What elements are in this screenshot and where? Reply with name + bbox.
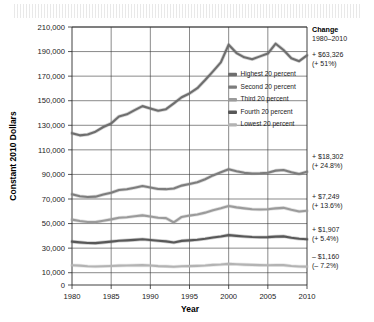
- legend-item-0: Highest 20 percent: [228, 70, 296, 78]
- x-tick-label: 2000: [220, 292, 237, 301]
- legend-swatch: [228, 73, 237, 76]
- legend-swatch: [228, 111, 237, 114]
- x-tick-label: 1980: [64, 292, 81, 301]
- y-tick-label: 190,000: [38, 47, 65, 56]
- y-tick-label: 130,000: [38, 121, 65, 130]
- y-tick-label: 90,000: [42, 170, 65, 179]
- chart-svg: 010,00030,00050,00070,00090,000110,00013…: [0, 0, 374, 322]
- legend-swatch: [228, 98, 237, 101]
- third-change-amount: + $7,249: [312, 193, 340, 200]
- legend-item-3: Fourth 20 percent: [228, 108, 293, 116]
- change-header-line1: Change: [312, 25, 338, 34]
- annotation-highest: + $63,326 (+ 51%): [312, 51, 343, 68]
- second-change-percent: (+ 24.8%): [312, 162, 343, 170]
- legend-item-2: Third 20 percent: [228, 95, 289, 103]
- x-tick-label: 1995: [181, 292, 198, 301]
- annotation-fourth: + $1,907 (+ 5.4%): [312, 226, 340, 243]
- y-tick-label: 50,000: [42, 219, 65, 228]
- x-tick-label: 1990: [142, 292, 159, 301]
- legend-swatch: [228, 123, 237, 126]
- change-header-line2: 1980–2010: [312, 35, 347, 42]
- lowest-change-percent: (– 7.2%): [312, 262, 338, 270]
- y-axis-label: Constant 2010 Dollars: [8, 111, 18, 201]
- y-axis-ticks: 010,00030,00050,00070,00090,000110,00013…: [38, 23, 72, 290]
- legend-item-1: Second 20 percent: [228, 83, 296, 91]
- third-change-percent: (+ 13.6%): [312, 202, 343, 210]
- y-tick-label: 110,000: [38, 146, 65, 155]
- y-tick-label: 30,000: [42, 244, 65, 253]
- fourth-change-percent: (+ 5.4%): [312, 235, 339, 243]
- legend-label: Third 20 percent: [241, 95, 289, 103]
- x-axis-ticks: 1980198519901995200020052010: [64, 285, 316, 301]
- annotation-second: + $18,302 (+ 24.8%): [312, 153, 343, 170]
- highest-change-percent: (+ 51%): [312, 60, 337, 68]
- y-tick-label: 150,000: [38, 96, 65, 105]
- y-tick-label: 210,000: [38, 23, 65, 32]
- legend-swatch: [228, 85, 237, 88]
- legend-label: Highest 20 percent: [241, 70, 297, 78]
- chart-legend: Highest 20 percentSecond 20 percentThird…: [228, 70, 296, 128]
- x-tick-label: 2005: [259, 292, 276, 301]
- annotation-lowest: – $1,160 (– 7.2%): [312, 253, 339, 270]
- fourth-change-amount: + $1,907: [312, 226, 340, 233]
- income-quintile-line-chart: 010,00030,00050,00070,00090,000110,00013…: [0, 0, 374, 322]
- legend-label: Second 20 percent: [241, 83, 297, 91]
- x-axis-label: Year: [181, 304, 200, 314]
- y-tick-label: 10,000: [42, 268, 65, 277]
- second-change-amount: + $18,302: [312, 153, 343, 160]
- x-tick-label: 1985: [103, 292, 120, 301]
- legend-label: Fourth 20 percent: [241, 108, 293, 116]
- y-tick-label: 70,000: [42, 195, 65, 204]
- legend-label: Lowest 20 percent: [241, 120, 295, 128]
- annotation-change-header: Change 1980–2010: [312, 25, 347, 42]
- x-tick-label: 2010: [299, 292, 316, 301]
- lowest-change-amount: – $1,160: [312, 253, 339, 260]
- gridlines: [72, 27, 307, 285]
- y-tick-label: 170,000: [38, 72, 65, 81]
- highest-change-amount: + $63,326: [312, 51, 343, 58]
- legend-item-4: Lowest 20 percent: [228, 120, 295, 128]
- y-tick-label: 0: [61, 281, 65, 290]
- annotation-third: + $7,249 (+ 13.6%): [312, 193, 343, 210]
